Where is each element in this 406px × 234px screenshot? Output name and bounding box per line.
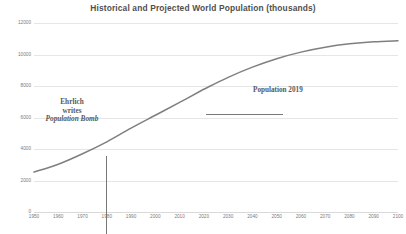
ehrlich-annotation: Ehrlich writes Population Bomb	[18, 98, 126, 124]
y-axis-tick-label: 12000	[1, 20, 31, 25]
x-axis-tick-label: 2100	[383, 214, 406, 219]
chart-title: Historical and Projected World Populatio…	[0, 3, 406, 13]
chart-container: Historical and Projected World Populatio…	[0, 0, 406, 234]
y-axis-tick-label: 8000	[1, 83, 31, 88]
x-axis-line	[34, 212, 398, 213]
population-2019-label: Population 2019	[253, 86, 303, 94]
x-axis: 1950196019701980199020002010202020302040…	[34, 214, 398, 226]
y-axis-tick-label: 4000	[1, 146, 31, 151]
population-2019-leader-line	[206, 114, 283, 115]
y-axis-tick-label: 2000	[1, 178, 31, 183]
ehrlich-annotation-line-3: Population Bomb	[18, 115, 126, 124]
y-axis-tick-label: 10000	[1, 52, 31, 57]
